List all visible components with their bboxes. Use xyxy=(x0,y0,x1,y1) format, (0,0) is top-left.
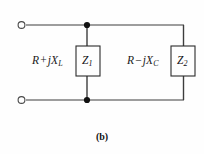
z1-subscript: 1 xyxy=(88,59,92,68)
branch2-impedance-expression: R−jXC xyxy=(127,54,159,68)
branch2-operator: − xyxy=(134,54,143,66)
branch2-reactance-symbol: jX xyxy=(143,54,153,66)
junction-top-dot xyxy=(84,22,90,28)
z2-subscript: 2 xyxy=(183,59,187,68)
terminal-bottom-left-icon xyxy=(18,97,25,104)
circuit-figure: R+jXL R−jXC Z1 Z2 (b) xyxy=(0,0,204,154)
impedance-box-z2-label: Z2 xyxy=(177,54,187,68)
branch1-impedance-expression: R+jXL xyxy=(32,54,63,68)
branch1-operator: + xyxy=(39,54,48,66)
figure-caption: (b) xyxy=(0,131,204,142)
branch2-reactance-subscript: C xyxy=(153,59,158,68)
branch1-reactance-symbol: jX xyxy=(48,54,58,66)
junction-bottom-dot xyxy=(84,97,90,103)
impedance-box-z1-label: Z1 xyxy=(82,54,92,68)
branch1-reactance-subscript: L xyxy=(58,59,63,68)
terminal-top-left-icon xyxy=(18,22,25,29)
